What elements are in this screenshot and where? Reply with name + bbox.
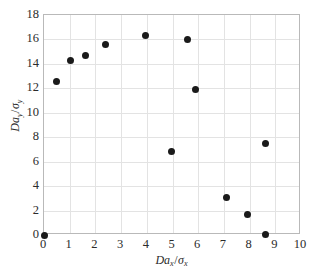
- data-point: [168, 148, 175, 155]
- y-tick-label: 16: [1, 32, 39, 45]
- y-axis-title-prefix-subscript: y: [15, 113, 24, 117]
- x-axis-title: Dax/σx: [43, 253, 300, 268]
- data-point: [223, 194, 230, 201]
- data-point: [184, 36, 191, 43]
- gridline-horizontal: [44, 186, 299, 187]
- y-axis-title: Day/σy: [8, 46, 23, 186]
- gridline-vertical: [70, 15, 71, 233]
- x-axis-title-sigma-subscript: x: [184, 259, 188, 268]
- gridline-vertical: [95, 15, 96, 233]
- gridline-horizontal: [44, 39, 299, 40]
- data-point: [142, 32, 149, 39]
- x-axis-title-prefix: Da: [155, 253, 170, 267]
- y-tick-label: 2: [1, 203, 39, 216]
- gridline-horizontal: [44, 137, 299, 138]
- data-point: [262, 231, 269, 238]
- gridline-horizontal: [44, 64, 299, 65]
- gridline-horizontal: [44, 88, 299, 89]
- y-axis-title-prefix: Da: [8, 117, 22, 132]
- gridline-horizontal: [44, 113, 299, 114]
- y-axis-title-slash: /: [8, 109, 22, 113]
- gridline-horizontal: [44, 162, 299, 163]
- gridline-vertical: [147, 15, 148, 233]
- data-point: [53, 78, 60, 85]
- data-point: [244, 211, 251, 218]
- data-point: [82, 52, 89, 59]
- gridline-horizontal: [44, 211, 299, 212]
- plot-area: [43, 14, 300, 234]
- gridline-vertical: [250, 15, 251, 233]
- scatter-plot-figure: 024681012141618 012345678910 Dax/σx Day/…: [0, 0, 316, 274]
- y-tick-label: 18: [1, 8, 39, 21]
- data-point: [262, 140, 269, 147]
- x-axis-tick-labels: 012345678910: [43, 238, 300, 254]
- x-tick-label: 10: [285, 238, 315, 251]
- gridline-vertical: [173, 15, 174, 233]
- y-axis-title-sigma: σ: [8, 103, 22, 109]
- y-axis-title-sigma-subscript: y: [15, 100, 24, 104]
- gridline-vertical: [121, 15, 122, 233]
- gridline-vertical: [198, 15, 199, 233]
- gridline-vertical: [275, 15, 276, 233]
- data-point: [102, 41, 109, 48]
